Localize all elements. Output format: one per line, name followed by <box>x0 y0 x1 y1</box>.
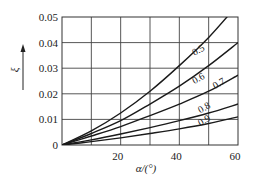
x-tick-labels: 204060 <box>112 150 241 162</box>
arrowhead-icon <box>21 44 26 52</box>
y-tick-label: 0.01 <box>39 113 58 125</box>
x-tick-label: 40 <box>171 150 183 162</box>
chart: 0.50.60.70.80.9 00.010.020.030.040.05 20… <box>0 0 254 180</box>
y-axis-title: ξ <box>8 67 21 72</box>
y-tick-label: 0.02 <box>39 88 58 100</box>
y-tick-label: 0.05 <box>39 11 59 23</box>
x-tick-label: 20 <box>112 150 124 162</box>
x-axis-title: α/(°) <box>136 162 157 175</box>
y-axis-label: ξ <box>8 44 26 90</box>
y-tick-label: 0.03 <box>39 62 59 74</box>
y-tick-label: 0.04 <box>39 37 59 49</box>
x-tick-label: 60 <box>230 150 242 162</box>
y-tick-labels: 00.010.020.030.040.05 <box>39 11 59 151</box>
curve-label-0.5: 0.5 <box>190 42 206 58</box>
curve-label-0.6: 0.6 <box>190 70 206 86</box>
y-tick-label: 0 <box>53 139 59 151</box>
